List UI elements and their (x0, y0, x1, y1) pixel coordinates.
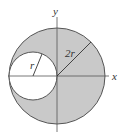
x-axis-label: x (111, 70, 117, 82)
large-radius-label: 2r (65, 47, 76, 59)
circles-diagram: y x 2r r (0, 0, 127, 139)
small-radius-label: r (30, 59, 35, 71)
y-axis-label: y (52, 5, 58, 17)
